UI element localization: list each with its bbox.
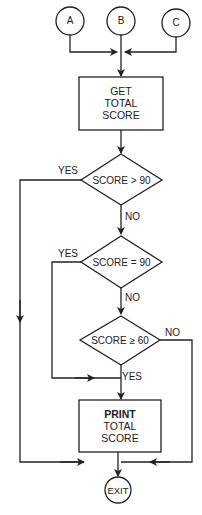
decision-3-yes-label: YES <box>122 372 142 382</box>
connector-a-label: A <box>60 15 80 26</box>
connector-c-line <box>125 37 176 52</box>
process-2-line-1: PRINT <box>79 408 161 420</box>
connector-c-label: C <box>166 17 186 28</box>
yes-path-1 <box>20 180 81 462</box>
decision-3-no-label: NO <box>165 328 180 338</box>
decision-2-yes-label: YES <box>58 249 78 259</box>
process-2-line-3: SCORE <box>79 432 161 444</box>
connector-b-label: B <box>111 15 131 26</box>
process-2-text: PRINT TOTAL SCORE <box>79 408 161 444</box>
decision-3-condition: SCORE ≥ 60 <box>80 335 160 346</box>
process-1-line-2: TOTAL <box>79 97 163 109</box>
process-1-line-1: GET <box>79 85 163 97</box>
decision-1-yes-label: YES <box>58 166 78 176</box>
terminal-exit-label: EXIT <box>103 485 133 496</box>
decision-2-no-label: NO <box>125 293 140 303</box>
yes-path-2 <box>52 262 121 378</box>
connector-a-line <box>70 35 117 52</box>
process-1-text: GET TOTAL SCORE <box>79 85 163 121</box>
decision-1-no-label: NO <box>125 212 140 222</box>
process-2-line-2: TOTAL <box>79 420 161 432</box>
decision-1-condition: SCORE > 90 <box>81 175 162 186</box>
process-1-line-3: SCORE <box>79 109 163 121</box>
decision-2-condition: SCORE = 90 <box>81 257 162 268</box>
